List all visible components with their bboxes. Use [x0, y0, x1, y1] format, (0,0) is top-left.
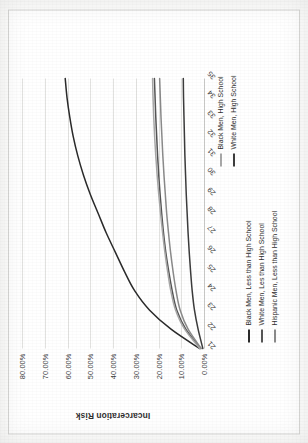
plot-area: 80.00%70.00%60.00%50.00%40.00%30.00%20.0… — [22, 78, 204, 348]
rotated-chart-container: Incarceration Risk 80.00%70.00%60.00%50.… — [8, 9, 300, 434]
y-axis-tick-label: 30.00% — [131, 353, 140, 379]
legend-item[interactable]: White Men, High School — [229, 75, 239, 166]
y-axis-title: Incarceration Risk — [22, 410, 204, 420]
legend-color-swatch — [261, 329, 264, 342]
legend-item[interactable]: White Men, Les than High School — [257, 210, 267, 342]
series-lines — [22, 78, 204, 348]
legend-item-label: Black Men, Less than High School — [244, 220, 254, 325]
legend-group-less-than-high-school: Black Men, Less than High SchoolWhite Me… — [244, 210, 283, 342]
legend-item-label: White Men, High School — [229, 75, 239, 149]
y-axis-tick-label: 40.00% — [109, 353, 118, 379]
legend-item-label: Black Men, High School — [216, 76, 226, 149]
y-axis-tick-label: 20.00% — [154, 353, 163, 379]
legend-item[interactable]: Hispanic Men, Less than High School — [270, 210, 280, 342]
y-axis-tick-label: 70.00% — [40, 353, 49, 379]
y-axis-tick-label: 80.00% — [18, 353, 27, 379]
legend-item[interactable]: Black Men, High School — [216, 75, 226, 166]
series-line — [183, 78, 203, 348]
legend-color-swatch — [274, 329, 277, 342]
y-axis-tick-label: 0.00% — [200, 353, 209, 374]
scanned-page: Incarceration Risk 80.00%70.00%60.00%50.… — [0, 0, 308, 443]
legend-item[interactable]: Black Men, Less than High School — [244, 210, 254, 342]
y-axis-tick-label: 60.00% — [63, 353, 72, 379]
y-axis-tick-label: 10.00% — [177, 353, 186, 379]
legend-color-swatch — [233, 153, 236, 166]
legend-color-swatch — [248, 329, 251, 342]
legend-item-label: Hispanic Men, Less than High School — [270, 210, 280, 325]
series-line — [160, 78, 202, 348]
gridline — [204, 78, 205, 348]
legend-color-swatch — [220, 153, 223, 166]
legend-item-label: White Men, Les than High School — [257, 223, 267, 325]
legend-group-high-school: Black Men, High SchoolWhite Men, High Sc… — [216, 75, 242, 166]
y-axis-tick-label: 50.00% — [86, 353, 95, 379]
